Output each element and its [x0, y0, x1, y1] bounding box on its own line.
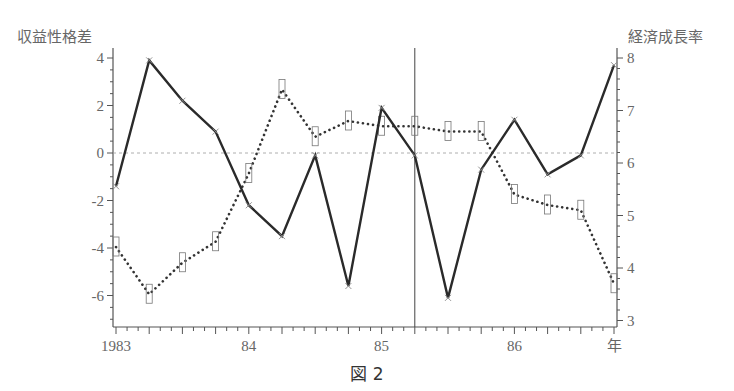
right-tick-label: 7 [627, 103, 635, 119]
growth-rate-marker [179, 253, 185, 272]
figure-caption: 図 2 [0, 360, 734, 385]
right-tick-label: 5 [627, 208, 635, 224]
x-tick-label: 85 [374, 338, 389, 354]
growth-rate-marker [279, 80, 285, 99]
right-tick-label: 4 [627, 260, 635, 276]
x-tick-label: 年 [607, 338, 622, 354]
left-tick-label: 0 [97, 145, 105, 161]
left-tick-label: -6 [92, 288, 105, 304]
x-tick-label: 1983 [101, 338, 131, 354]
right-tick-label: 6 [627, 155, 635, 171]
right-tick-label: 8 [627, 50, 635, 66]
x-tick-label: 84 [241, 338, 257, 354]
line-chart: 420-2-4-68765431983848586年 [0, 0, 734, 391]
left-tick-label: -2 [92, 193, 105, 209]
x-tick-label: 86 [507, 338, 523, 354]
left-tick-label: 2 [97, 98, 105, 114]
profitability-gap-line [116, 60, 614, 298]
left-tick-label: -4 [92, 240, 105, 256]
right-tick-label: 3 [627, 313, 635, 329]
left-tick-label: 4 [97, 50, 105, 66]
profitability-gap-marker [179, 98, 185, 104]
